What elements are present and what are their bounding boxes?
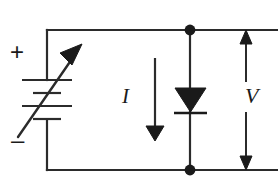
- junction-node-top: [185, 25, 196, 36]
- diode-triangle: [175, 88, 206, 112]
- circuit-wires: [47, 30, 278, 170]
- circuit-schematic-svg: [0, 0, 278, 196]
- voltage-label: V: [245, 85, 258, 107]
- variable-arrow: [18, 44, 82, 137]
- diode: [174, 88, 207, 113]
- circuit-diagram-canvas: I V + –: [0, 0, 278, 196]
- current-arrow: [146, 58, 164, 141]
- current-label: I: [122, 86, 129, 107]
- variable-arrow-head: [60, 44, 82, 65]
- current-arrow-head: [146, 126, 164, 141]
- voltage-arrow-head-down: [240, 156, 252, 170]
- voltage-arrow-head-up: [240, 30, 252, 44]
- junction-node-bottom: [185, 165, 196, 176]
- variable-dc-source: [22, 80, 72, 119]
- source-positive-label: +: [10, 40, 24, 64]
- source-negative-label: –: [11, 128, 24, 152]
